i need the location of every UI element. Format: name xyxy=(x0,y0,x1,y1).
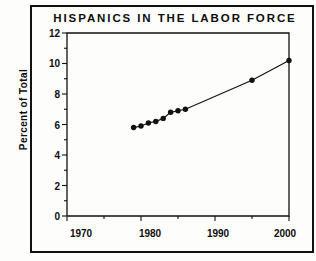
axis-frame xyxy=(67,33,289,216)
axis-minor-ticks xyxy=(64,48,252,219)
data-point xyxy=(138,123,143,128)
data-point xyxy=(183,107,188,112)
plot-area xyxy=(0,0,316,261)
data-markers xyxy=(131,58,292,131)
axis-major-ticks xyxy=(62,33,289,221)
data-point xyxy=(286,58,291,63)
data-line xyxy=(134,60,289,127)
chart-figure: HISPANICS IN THE LABOR FORCE Percent of … xyxy=(0,0,316,261)
data-point xyxy=(153,119,158,124)
data-point xyxy=(161,116,166,121)
data-point xyxy=(249,78,254,83)
data-point xyxy=(131,125,136,130)
data-point xyxy=(175,108,180,113)
data-point xyxy=(146,120,151,125)
data-point xyxy=(168,110,173,115)
